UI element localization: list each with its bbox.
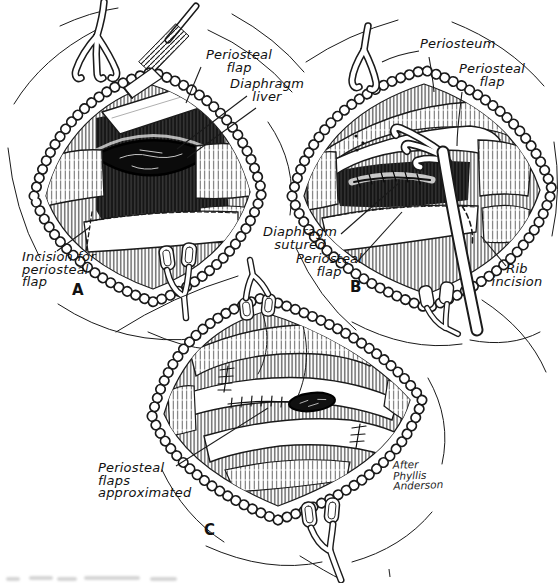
- label-periosteal-flap-a: Periosteal flap: [196, 49, 282, 74]
- retractor-bottom-c: [301, 497, 341, 580]
- label-line: Periosteum: [420, 38, 496, 51]
- label-line: liver: [228, 91, 306, 104]
- rib-stub-b-left: [306, 152, 338, 210]
- rake-retractor-a: [75, 2, 116, 79]
- label-periosteal-flap-lower-b: Periosteal flap: [292, 253, 366, 278]
- label-rib-incision-b: Rib incision: [486, 263, 548, 288]
- label-incision-for-periosteal-flap-a: Incision for periosteal flap: [22, 251, 96, 289]
- label-periosteal-flaps-approximated-c: Periosteal flaps approximated: [98, 462, 191, 500]
- label-diaphragm-liver-a: Diaphragm liver: [228, 78, 306, 103]
- label-line: flap: [292, 266, 366, 279]
- panel-c-illustration: [116, 260, 445, 580]
- rib-band-b-right: [478, 140, 532, 196]
- panel-letter-b: B: [350, 278, 361, 296]
- label-line: incision: [486, 276, 548, 289]
- retractor-top-b: [352, 26, 376, 90]
- cropped-caption-fragment: [29, 576, 53, 580]
- label-periosteal-flap-b: Periosteal flap: [458, 63, 526, 88]
- artist-credit: After Phyllis Anderson: [392, 458, 443, 491]
- label-periosteum-b: Periosteum: [420, 38, 496, 51]
- cropped-caption-fragment: [57, 577, 77, 581]
- rib-band-a-left: [44, 150, 104, 206]
- illustration-page: Periosteal flap Diaphragm liver Incision…: [0, 0, 559, 583]
- credit-line: Anderson: [393, 479, 443, 491]
- panel-letter-a: A: [72, 281, 84, 299]
- label-line: approximated: [98, 487, 191, 500]
- rib-stub-c-left: [168, 386, 196, 436]
- label-line: sutured: [258, 239, 342, 252]
- label-diaphragm-sutured-b: Diaphragm sutured: [258, 226, 342, 251]
- cropped-caption-fragment: [150, 577, 177, 581]
- retractor-top-c: [239, 260, 276, 321]
- label-line: flap: [196, 62, 282, 75]
- panel-letter-c: C: [204, 521, 215, 539]
- cropped-caption-fragment: [84, 576, 140, 580]
- cropped-caption-fragment: [6, 577, 20, 581]
- rib-band-b-right2: [482, 205, 530, 242]
- label-line: flap: [22, 276, 96, 289]
- label-line: flap: [458, 76, 526, 89]
